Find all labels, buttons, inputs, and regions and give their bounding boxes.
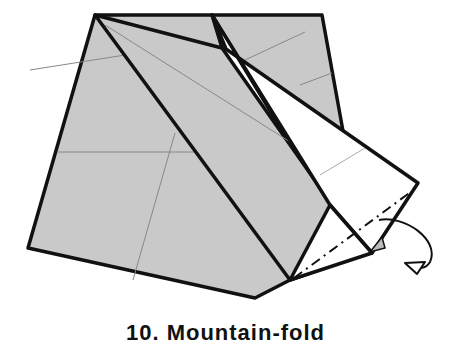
arrow-head-icon [405,262,425,274]
step-caption: 10. Mountain-fold [0,320,451,344]
